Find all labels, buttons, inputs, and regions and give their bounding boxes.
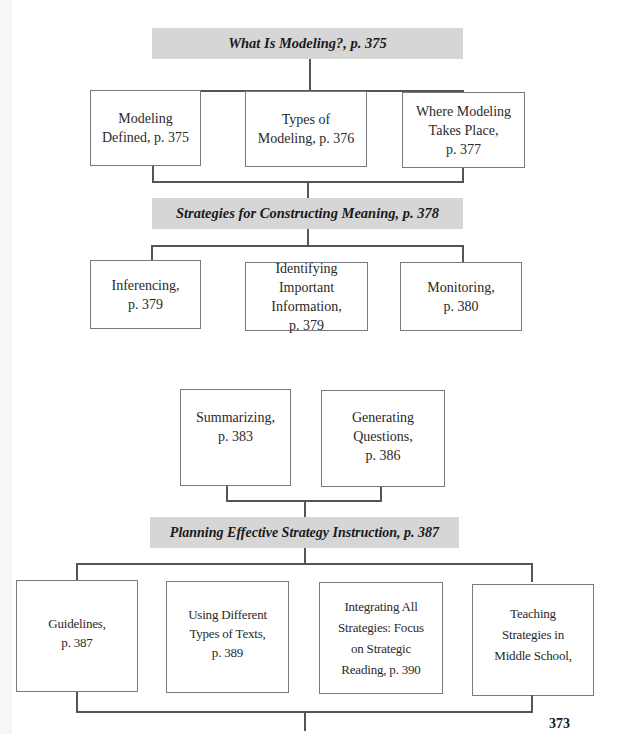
section-title: Strategies for Constructing Meaning, p. … <box>176 205 439 222</box>
connector <box>462 245 464 263</box>
topic-box-using-different-types-of-texts: Using Different Types of Texts, p. 389 <box>166 581 289 693</box>
topic-box-types-of-modeling: Types of Modeling, p. 376 <box>245 91 367 167</box>
topic-label: Identifying Important Information, p. 37… <box>271 259 341 335</box>
topic-label: Monitoring, p. 380 <box>427 278 494 316</box>
topic-label: Modeling Defined, p. 375 <box>102 109 189 147</box>
topic-box-monitoring: Monitoring, p. 380 <box>400 262 522 331</box>
connector <box>226 486 228 501</box>
topic-label: Summarizing, p. 383 <box>196 408 275 446</box>
section-header-what-is-modeling: What Is Modeling?, p. 375 <box>152 28 463 59</box>
connector <box>76 563 532 565</box>
topic-box-summarizing: Summarizing, p. 383 <box>180 389 291 486</box>
connector <box>151 245 153 261</box>
connector <box>304 500 306 518</box>
connector <box>304 711 306 731</box>
topic-box-inferencing: Inferencing, p. 379 <box>90 260 201 329</box>
page-number: 373 <box>549 716 570 732</box>
topic-box-teaching-strategies-middle-school: Teaching Strategies in Middle School, <box>472 584 594 696</box>
connector <box>309 59 311 91</box>
connector <box>380 487 382 501</box>
connector <box>76 692 78 713</box>
connector <box>76 563 78 581</box>
section-title: What Is Modeling?, p. 375 <box>228 35 387 52</box>
topic-label: Guidelines, p. 387 <box>48 614 105 652</box>
topic-box-modeling-defined: Modeling Defined, p. 375 <box>90 90 201 166</box>
topic-label: Using Different Types of Texts, p. 389 <box>188 605 267 662</box>
topic-box-generating-questions: Generating Questions, p. 386 <box>321 390 445 487</box>
connector <box>531 563 533 582</box>
section-header-strategies-constructing-meaning: Strategies for Constructing Meaning, p. … <box>152 198 463 229</box>
page-edge-shadow <box>0 0 12 734</box>
topic-label: Inferencing, p. 379 <box>111 276 179 314</box>
connector <box>151 245 464 247</box>
topic-label: Where Modeling Takes Place, p. 377 <box>416 102 511 159</box>
topic-label: Generating Questions, p. 386 <box>352 408 414 465</box>
connector <box>304 548 306 564</box>
topic-box-guidelines: Guidelines, p. 387 <box>16 580 138 692</box>
topic-label: Integrating All Strategies: Focus on Str… <box>338 596 424 680</box>
connector <box>307 181 309 199</box>
topic-box-where-modeling-takes-place: Where Modeling Takes Place, p. 377 <box>402 92 525 168</box>
section-title: Planning Effective Strategy Instruction,… <box>170 525 439 541</box>
connector <box>307 229 309 246</box>
topic-label: Teaching Strategies in Middle School, <box>494 603 571 666</box>
topic-box-identifying-important-information: Identifying Important Information, p. 37… <box>245 262 368 331</box>
topic-box-integrating-all-strategies: Integrating All Strategies: Focus on Str… <box>319 582 443 694</box>
section-header-planning-effective-strategy-instruction: Planning Effective Strategy Instruction,… <box>150 517 459 548</box>
topic-label: Types of Modeling, p. 376 <box>258 110 354 148</box>
